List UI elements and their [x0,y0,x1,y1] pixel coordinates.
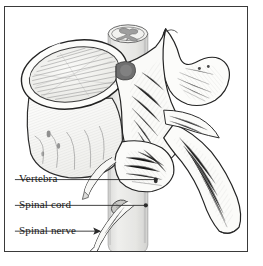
leader-dot-vertebra [154,178,158,182]
label-spinal-cord: Spinal cord [19,199,71,210]
spinous-process [164,110,241,233]
figure-frame: Vertebra Spinal cord Spinal nerve [4,6,248,252]
vertebra-illustration [5,7,247,251]
figure-root: Vertebra Spinal cord Spinal nerve [0,0,263,266]
superior-articular-process [161,29,229,106]
label-vertebra: Vertebra [19,173,57,184]
leader-dot-spinal-cord [144,203,148,207]
label-spinal-nerve: Spinal nerve [19,225,76,236]
